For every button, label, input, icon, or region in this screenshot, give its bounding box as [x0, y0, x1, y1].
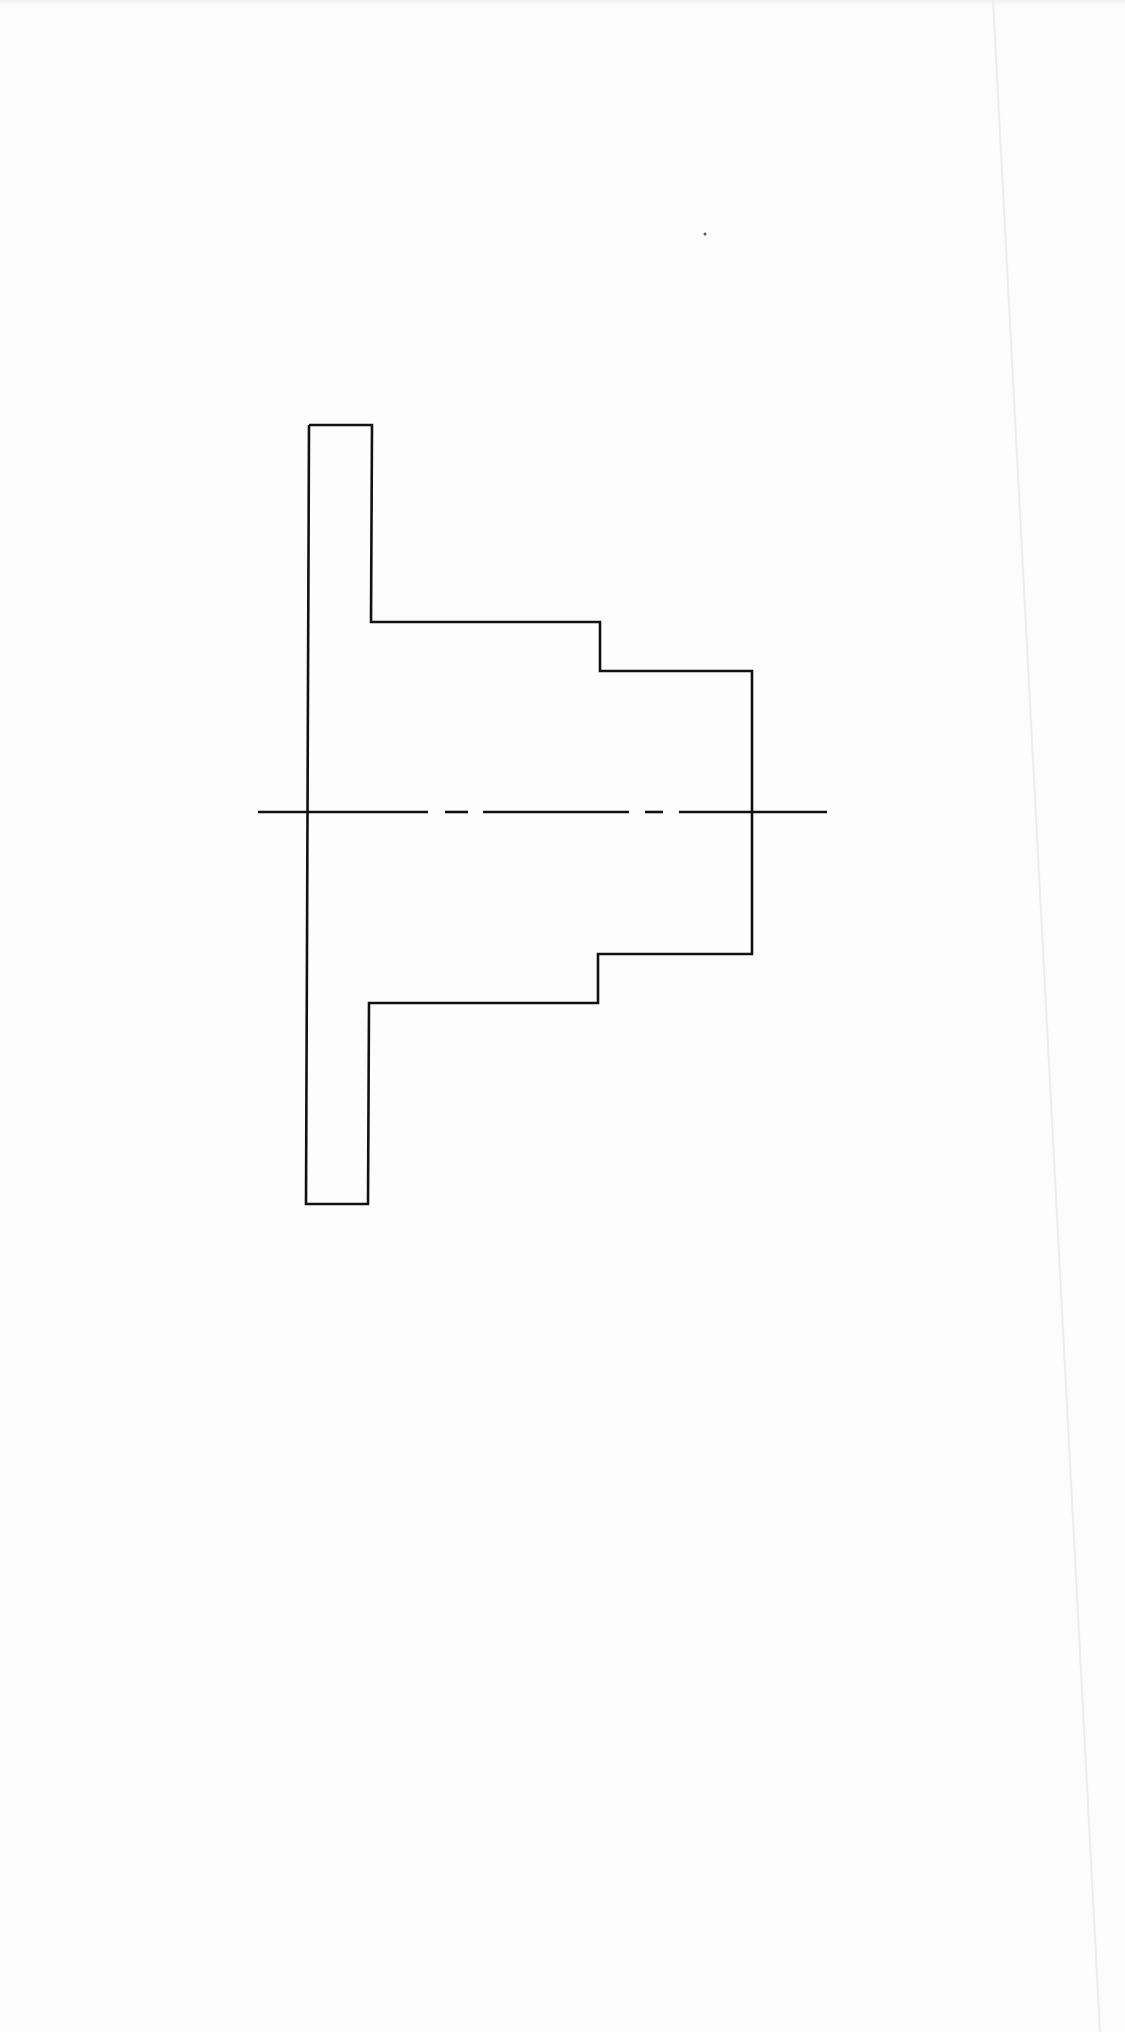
scan-fold-line [993, 0, 1100, 2032]
part-outline [306, 425, 752, 1204]
drawing-sheet: Stepped flanged shaft – sectional outlin… [0, 0, 1125, 2032]
technical-drawing [0, 0, 1125, 2032]
scan-speck [704, 233, 707, 236]
